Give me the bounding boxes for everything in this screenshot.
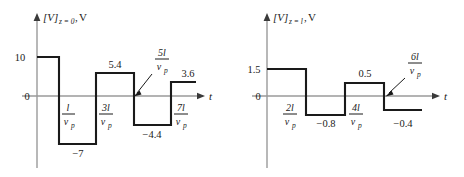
annotation-leader-line — [137, 74, 152, 93]
level-label-neg7: −7 — [72, 148, 83, 159]
annotation-numerator: 6l — [411, 51, 419, 62]
xtick-denominator-sub: p — [107, 121, 112, 130]
y-axis-label-comma: , — [75, 11, 78, 23]
xtick-l-over-vp: l v p — [62, 102, 75, 130]
figure-two-waveform-plots: [V] z = 0 V , t 10 0 5.4 3.6 −7 −4.4 l v — [0, 0, 464, 177]
y-axis-label-v: [V] — [273, 11, 288, 23]
chart-panel-left: [V] z = 0 V , t 10 0 5.4 3.6 −7 −4.4 l v — [0, 0, 232, 177]
annotation-denominator-v: v — [410, 65, 415, 76]
x-axis-label-left: t — [209, 90, 213, 102]
level-label-neg4p4: −4.4 — [142, 129, 162, 140]
xtick-numerator: 7l — [177, 102, 185, 113]
y-axis-label-subscript: z = l — [288, 17, 303, 26]
x-axis-arrow-icon — [197, 93, 205, 99]
xtick-numerator: 3l — [101, 102, 110, 113]
xtick-denominator-v: v — [64, 116, 69, 127]
ytick-zero: 0 — [255, 91, 260, 102]
y-axis-label-unit: V — [308, 11, 316, 23]
annotation-denominator-sub: p — [163, 66, 168, 75]
annotation-numerator: 5l — [158, 47, 166, 58]
y-axis-arrow-icon — [34, 13, 41, 21]
xtick-denominator-v: v — [101, 116, 106, 127]
xtick-denominator-sub: p — [70, 121, 75, 130]
x-axis-label-right: t — [444, 90, 448, 102]
x-axis-arrow-icon — [432, 93, 440, 99]
level-label-0p5: 0.5 — [358, 68, 371, 79]
annotation-denominator-sub: p — [416, 70, 421, 79]
xtick-denominator-v: v — [351, 116, 356, 127]
y-axis-label-right: [V] z = l , V — [273, 11, 316, 26]
level-label-neg0p8: −0.8 — [316, 118, 335, 129]
y-axis-label-v: [V] — [43, 11, 58, 23]
ytick-zero: 0 — [24, 91, 29, 102]
y-axis-label-comma: , — [304, 11, 307, 23]
level-label-3p6: 3.6 — [181, 68, 194, 79]
xtick-3l-over-vp: 3l v p — [99, 102, 113, 130]
xtick-numerator: 4l — [352, 102, 360, 113]
xtick-7l-over-vp: 7l v p — [174, 102, 188, 130]
y-axis-label-left: [V] z = 0 V , — [43, 11, 87, 26]
annotation-denominator-v: v — [157, 61, 162, 72]
xtick-denominator-sub: p — [182, 121, 187, 130]
chart-panel-right: [V] z = l , V t 1.5 0 0.5 −0.8 −0.4 2l v… — [232, 0, 464, 177]
level-label-neg0p4: −0.4 — [393, 118, 413, 129]
annotation-6l-over-vp: 6l v p — [386, 51, 423, 97]
ytick-10: 10 — [15, 52, 26, 63]
xtick-4l-over-vp: 4l v p — [349, 102, 363, 130]
level-label-5p4: 5.4 — [108, 59, 122, 70]
xtick-2l-over-vp: 2l v p — [283, 102, 297, 130]
y-axis-arrow-icon — [264, 13, 271, 21]
xtick-denominator-sub: p — [291, 121, 296, 130]
y-axis-label-subscript: z = 0 — [58, 17, 75, 26]
xtick-denominator-sub: p — [357, 121, 362, 130]
xtick-numerator: 2l — [286, 102, 294, 113]
xtick-denominator-v: v — [285, 116, 290, 127]
y-axis-label-unit: V — [79, 11, 87, 23]
waveform-left — [37, 57, 196, 144]
annotation-5l-over-vp: 5l v p — [134, 47, 170, 97]
xtick-numerator: l — [67, 102, 70, 113]
ytick-1p5: 1.5 — [247, 64, 260, 75]
xtick-denominator-v: v — [176, 116, 181, 127]
